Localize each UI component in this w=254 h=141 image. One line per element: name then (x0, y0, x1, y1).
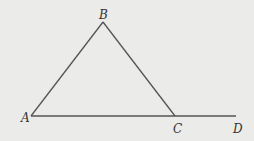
point-label-c: C (173, 122, 182, 136)
point-label-a: A (20, 111, 30, 125)
diagram-canvas: A B C D (0, 0, 254, 141)
point-label-b: B (98, 8, 108, 22)
triangle-diagram: A B C D (0, 0, 254, 141)
segment-bc (103, 22, 175, 116)
segment-ab (31, 22, 103, 116)
point-label-d: D (232, 122, 243, 136)
